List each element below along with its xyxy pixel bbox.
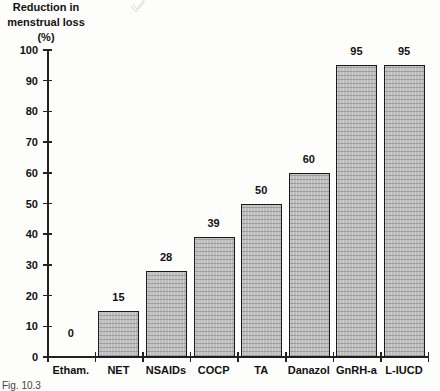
bar: [336, 65, 377, 357]
y-tick-label: 20: [0, 290, 38, 302]
figure-caption: Fig. 10.3: [2, 380, 41, 391]
y-axis-title-line-1: Reduction in: [2, 0, 90, 15]
bar-value-label: 95: [380, 45, 428, 57]
y-tick: [43, 141, 52, 143]
x-tick: [285, 352, 287, 362]
bar-value-label: 95: [332, 45, 380, 57]
y-tick-label: 100: [0, 44, 38, 56]
bar-value-label: 50: [237, 184, 285, 196]
y-tick: [43, 80, 52, 82]
bar: [146, 271, 187, 357]
bar-value-label: 60: [285, 153, 333, 165]
x-tick: [333, 352, 335, 362]
x-category-label: COCP: [190, 364, 238, 376]
y-tick: [43, 172, 52, 174]
y-tick-label: 0: [0, 351, 38, 363]
x-tick: [190, 352, 192, 362]
checkmark-watermark-icon: [130, 0, 146, 14]
x-tick: [237, 352, 239, 362]
bar-value-label: 28: [142, 251, 190, 263]
x-tick: [142, 352, 144, 362]
x-category-label: Danazol: [285, 364, 333, 376]
y-tick-label: 80: [0, 105, 38, 117]
y-tick: [43, 295, 52, 297]
y-tick-label: 50: [0, 198, 38, 210]
y-tick-label: 90: [0, 75, 38, 87]
y-tick-label: 70: [0, 136, 38, 148]
bar: [384, 65, 425, 357]
y-tick: [43, 49, 52, 51]
bar: [289, 173, 330, 357]
y-tick: [43, 203, 52, 205]
x-category-label: L-IUCD: [380, 364, 428, 376]
x-tick: [380, 352, 382, 362]
bar: [194, 237, 235, 357]
y-tick-label: 40: [0, 228, 38, 240]
y-tick: [43, 264, 52, 266]
x-category-label: GnRH-a: [332, 364, 380, 376]
x-tick: [95, 352, 97, 362]
bar-value-label: 39: [190, 217, 238, 229]
bar: [241, 204, 282, 358]
x-category-label: TA: [237, 364, 285, 376]
y-axis-title-line-2: menstrual loss (%): [2, 15, 90, 45]
y-axis-title: Reduction in menstrual loss (%): [2, 0, 90, 45]
bar: [98, 311, 139, 357]
y-tick: [43, 111, 52, 113]
x-category-label: NSAIDs: [142, 364, 190, 376]
x-category-label: NET: [94, 364, 142, 376]
x-tick: [47, 352, 49, 362]
bar-value-label: 0: [47, 327, 95, 339]
bar-value-label: 15: [94, 291, 142, 303]
x-category-label: Etham.: [47, 364, 95, 376]
y-tick-label: 10: [0, 320, 38, 332]
y-tick-label: 30: [0, 259, 38, 271]
x-tick: [428, 352, 430, 362]
y-tick: [43, 233, 52, 235]
y-tick-label: 60: [0, 167, 38, 179]
